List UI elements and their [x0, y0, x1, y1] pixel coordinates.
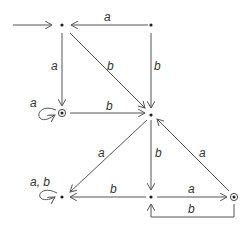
- state-s4: [149, 113, 152, 116]
- label-s6-s5: b: [110, 182, 117, 196]
- state-s1: [60, 23, 63, 26]
- label-s1-s4: b: [107, 59, 114, 73]
- state-s2: [149, 23, 152, 26]
- state-s5: [60, 195, 63, 198]
- state-s6: [149, 195, 152, 198]
- label-s5-loop: a, b: [30, 175, 50, 189]
- state-s3-accepting: [58, 109, 65, 116]
- edge-s7-s4: [157, 119, 229, 191]
- label-s4-s6: b: [155, 146, 162, 160]
- state-s7-accepting: [230, 193, 237, 200]
- loop-s5: [40, 190, 57, 199]
- label-s3-loop: a: [30, 96, 37, 110]
- loop-s3: [39, 108, 56, 120]
- label-s7-s4: a: [199, 146, 206, 160]
- label-s3-s4: b: [106, 99, 113, 113]
- label-s2-s1: a: [104, 10, 111, 24]
- label-s4-s5: a: [98, 146, 105, 160]
- label-s1-s3: a: [51, 59, 58, 73]
- label-s6-s7: a: [188, 182, 195, 196]
- edge-s4-s5: [70, 120, 147, 192]
- label-s7-s6: b: [188, 202, 195, 216]
- automaton-diagram: a a b b a b a b a a, b b a b: [0, 0, 247, 230]
- label-s2-s4: b: [154, 59, 161, 73]
